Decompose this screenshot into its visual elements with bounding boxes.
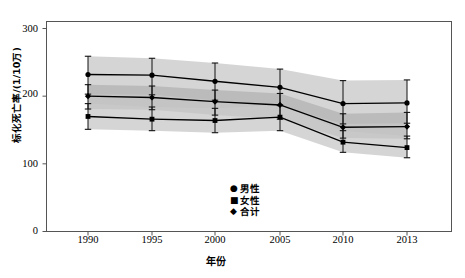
- legend-item-total: ◆ 合计: [230, 206, 260, 218]
- legend-label-total: 合计: [240, 206, 260, 218]
- legend-label-male: 男性: [240, 183, 260, 195]
- confidence-bands: [88, 56, 407, 158]
- legend-label-female: 女性: [240, 195, 260, 207]
- chart-legend: ● 男性 ■ 女性 ◆ 合计: [230, 183, 260, 218]
- legend-item-male: ● 男性: [230, 183, 260, 195]
- diamond-marker-icon: ◆: [230, 207, 237, 216]
- square-marker-icon: ■: [230, 196, 237, 205]
- chart-data-layer: [0, 0, 465, 278]
- circle-marker-icon: ●: [230, 184, 237, 193]
- legend-item-female: ■ 女性: [230, 195, 260, 207]
- chart-figure: 300 200 100 0 1990 1995 2000 2005 2010 2…: [0, 0, 465, 278]
